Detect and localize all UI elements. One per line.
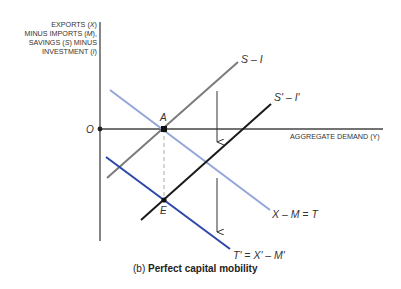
point-a-marker	[161, 126, 167, 132]
x-axis-label: AGGREGATE DEMAND (Y)	[290, 132, 380, 141]
origin-dot	[98, 127, 103, 132]
t-prime-label: T' = X' – M'	[233, 249, 286, 261]
s-minus-i-line	[107, 62, 238, 178]
x-minus-m-line	[110, 90, 270, 210]
y-label-line-1: EXPORTS (X)	[51, 20, 97, 29]
point-e-marker	[161, 197, 166, 202]
y-axis-label: EXPORTS (X) MINUS IMPORTS (M), SAVINGS (…	[24, 20, 97, 56]
figure-caption: (b) Perfect capital mobility	[133, 263, 258, 274]
origin-label: O	[86, 124, 94, 135]
y-label-line-2: MINUS IMPORTS (M),	[24, 29, 97, 38]
point-a-label: A	[159, 112, 167, 123]
x-minus-m-label: X – M = T	[271, 208, 319, 220]
capital-mobility-diagram: EXPORTS (X) MINUS IMPORTS (M), SAVINGS (…	[0, 0, 401, 289]
s-minus-i-label: S – I	[241, 53, 263, 65]
t-prime-line	[106, 157, 230, 249]
y-label-line-4: INVESTMENT (I)	[42, 47, 97, 56]
point-e-label: E	[160, 205, 167, 216]
y-label-line-3: SAVINGS (S) MINUS	[29, 38, 97, 47]
s-prime-minus-i-prime-label: S' – I'	[274, 91, 301, 103]
